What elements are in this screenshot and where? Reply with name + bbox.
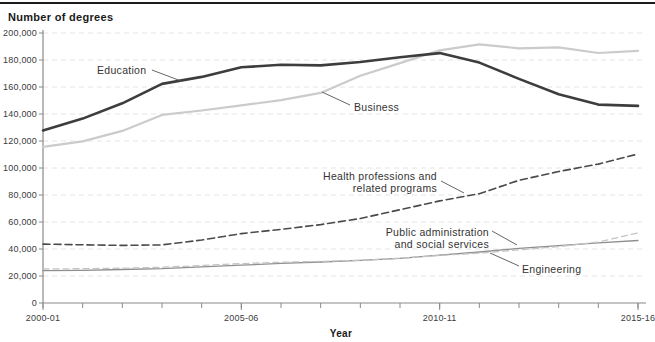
public-administration-label: Public administration [386,226,489,238]
x-tick-label: 2010-11 [423,313,457,323]
x-tick-label: 2015-16 [621,313,655,323]
y-tick-label: 0 [32,298,37,308]
y-tick-label: 120,000 [3,136,37,146]
y-tick-label: 200,000 [3,28,37,38]
health-professions-label: related programs [353,182,437,194]
health-professions-label: Health professions and [323,170,437,182]
y-tick-label: 80,000 [8,190,37,200]
degrees-line-chart-figure: Number of degrees 200,000180,000160,0001… [0,0,655,342]
engineering-label: Engineering [522,263,581,275]
y-tick-label: 140,000 [3,109,37,119]
y-axis-title: Number of degrees [8,11,113,23]
y-tick-label: 20,000 [8,271,37,281]
x-tick-label: 2000-01 [26,313,60,323]
y-tick-label: 160,000 [3,82,37,92]
top-rule [0,2,655,4]
education-label: Education [97,64,146,76]
y-tick-label: 180,000 [3,55,37,65]
y-tick-label: 40,000 [8,244,37,254]
y-tick-label: 100,000 [3,163,37,173]
x-tick-label: 2005-06 [224,313,258,323]
y-tick-label: 60,000 [8,217,37,227]
public-administration-label: and social services [395,238,489,250]
x-axis-title: Year [330,328,352,339]
chart-canvas: Number of degrees 200,000180,000160,0001… [0,0,655,342]
business-label: Business [354,101,399,113]
